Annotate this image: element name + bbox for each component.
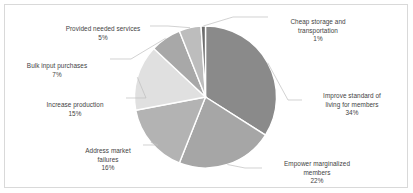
pie-chart-figure: Cheap storage and transportation 1% Impr… xyxy=(0,0,413,193)
pie-label-value: 16% xyxy=(60,164,156,172)
pie-label-line1: Increase production xyxy=(46,101,103,108)
pie-label-bulk-input-purchases: Bulk input purchases 7% xyxy=(4,54,110,88)
pie-leader-line xyxy=(227,165,262,169)
pie-label-line1: Empower marginalized xyxy=(284,160,350,167)
pie-label-provided-needed-services: Provided needed services 5% xyxy=(38,17,168,51)
pie-label-value: 15% xyxy=(24,110,126,118)
pie-label-value: 1% xyxy=(268,35,368,43)
pie-label-value: 7% xyxy=(4,71,110,79)
pie-label-empower-marginalized-members: Empower marginalized members 22% xyxy=(262,152,372,193)
pie-label-line2: transportation xyxy=(298,27,338,34)
pie-label-value: 5% xyxy=(38,34,168,42)
pie-label-improve-standard-of-living: Improve standard of living for members 3… xyxy=(302,84,402,126)
pie-label-value: 34% xyxy=(302,109,402,117)
pie-label-line2: living for members xyxy=(325,101,378,108)
pie-label-line1: Bulk input purchases xyxy=(27,62,87,69)
pie-label-value: 22% xyxy=(262,177,372,185)
pie-label-line1: Address market xyxy=(85,147,130,154)
pie-label-address-market-failures: Address market failures 16% xyxy=(60,139,156,181)
pie-label-line1: Cheap storage and xyxy=(290,18,345,25)
pie-label-cheap-storage-and-transportation: Cheap storage and transportation 1% xyxy=(268,10,368,52)
pie-leader-line xyxy=(203,17,268,26)
pie-label-line1: Improve standard of xyxy=(323,92,381,99)
pie-label-line1: Provided needed services xyxy=(66,25,141,32)
pie-label-line2: failures xyxy=(97,156,118,163)
pie-label-line2: members xyxy=(304,169,331,176)
pie-label-increase-production: Increase production 15% xyxy=(24,93,126,127)
